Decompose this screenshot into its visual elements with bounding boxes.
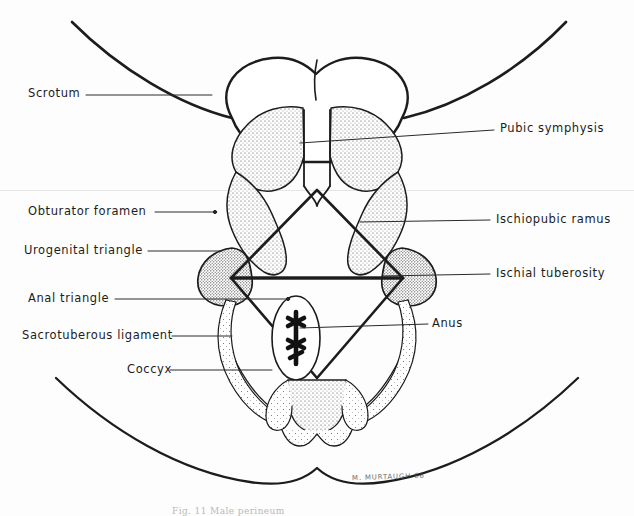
label-scrotum: Scrotum <box>28 88 80 100</box>
label-sacrotuberous-ligament: Sacrotuberous ligament <box>22 330 173 342</box>
label-pubic-symphysis: Pubic symphysis <box>500 123 604 135</box>
label-obturator-foramen: Obturator foramen <box>28 206 146 218</box>
gluteal-cleft-top <box>282 430 352 446</box>
label-ischiopubic-ramus: Ischiopubic ramus <box>496 214 611 226</box>
thigh-outline-left <box>72 22 232 118</box>
thigh-outline-right <box>404 22 566 118</box>
label-anus: Anus <box>432 318 463 330</box>
coccyx <box>287 380 347 434</box>
sacrum-ala-left <box>266 380 292 430</box>
label-coccyx: Coccyx <box>127 364 172 376</box>
figure-page: Scrotum Obturator foramen Urogenital tri… <box>0 0 634 516</box>
label-urogenital-triangle: Urogenital triangle <box>24 245 143 257</box>
sacrum-ala-right <box>342 380 368 430</box>
figure-caption: Fig. 11 Male perineum <box>172 506 285 516</box>
label-anal-triangle: Anal triangle <box>28 293 109 305</box>
perineum-line-drawing <box>0 0 634 516</box>
label-ischial-tuberosity: Ischial tuberosity <box>496 268 605 280</box>
